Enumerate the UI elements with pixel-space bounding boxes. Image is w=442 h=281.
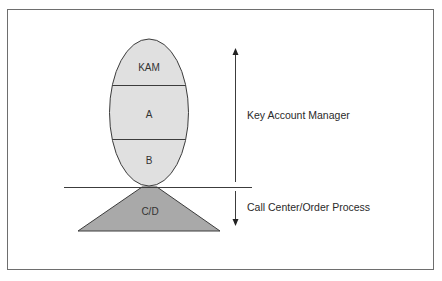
segment-kam-label: KAM [138,62,160,73]
up-arrowhead-icon [233,48,239,55]
diagram-canvas [0,0,442,281]
base-cd-label: C/D [141,206,158,217]
key-account-manager-label: Key Account Manager [247,109,350,121]
down-arrowhead-icon [233,219,239,226]
call-center-label: Call Center/Order Process [247,201,370,213]
segment-b-label: B [146,155,153,166]
segment-a-label: A [146,109,153,120]
